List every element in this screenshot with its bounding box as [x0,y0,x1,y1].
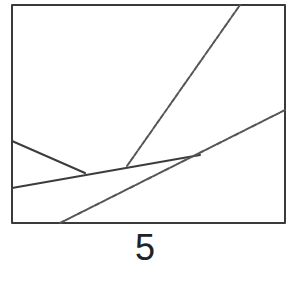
line-a [12,141,85,173]
diagram-frame [12,5,285,223]
line-b [12,155,200,188]
line-d [60,110,285,223]
figure-label: 5 [0,228,290,268]
